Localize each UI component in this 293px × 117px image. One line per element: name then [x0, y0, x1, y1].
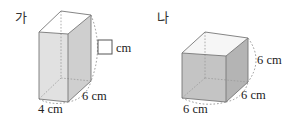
dimension-arc: [248, 38, 256, 82]
figure-ga: 가 cm 6 cm 4 cm: [15, 10, 132, 116]
depth-label: 6 cm: [241, 88, 266, 102]
answer-blank-box[interactable]: [98, 40, 112, 54]
figure-na: 나 6 cm 6 cm 6 cm: [157, 10, 282, 116]
depth-label: 6 cm: [82, 89, 107, 103]
width-label: 6 cm: [183, 102, 208, 116]
figure-label-na: 나: [157, 10, 169, 25]
figure-label-ga: 가: [15, 10, 27, 25]
cube-na: [182, 32, 248, 102]
height-unit-label: cm: [116, 41, 132, 55]
front-face: [182, 53, 226, 102]
diagram-canvas: 가 cm 6 cm 4 cm 나: [0, 0, 293, 117]
dimension-arc: [91, 15, 98, 81]
width-label: 4 cm: [38, 102, 63, 116]
front-face: [39, 32, 68, 102]
height-label: 6 cm: [257, 53, 282, 67]
